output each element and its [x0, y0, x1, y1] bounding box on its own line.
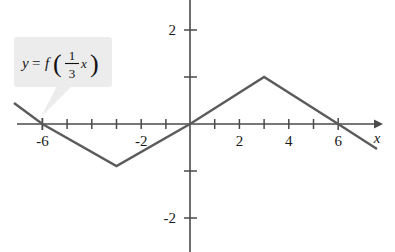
y-tick-label--2: -2 — [164, 210, 177, 226]
callout-numerator: 1 — [69, 48, 76, 63]
callout-tail — [41, 86, 72, 117]
x-tick-label-4: 4 — [285, 133, 293, 149]
function-curve — [14, 77, 377, 166]
callout-paren-open: ( — [53, 49, 62, 78]
callout-paren-close: ) — [90, 49, 99, 78]
y-tick-label-2: 2 — [169, 22, 177, 38]
callout-variable: x — [80, 56, 87, 71]
x-axis-label: x — [373, 130, 381, 146]
x-tick-label--6: -6 — [36, 133, 49, 149]
callout-equals: = — [32, 55, 40, 71]
graph-figure: -6 -2 2 4 6 2 -2 x y = f ( 1 3 x ) — [0, 0, 395, 252]
x-tick-label-6: 6 — [334, 133, 342, 149]
callout-y: y — [20, 55, 29, 71]
callout-denominator: 3 — [69, 66, 76, 81]
x-tick-label--2: -2 — [135, 133, 148, 149]
x-axis-arrow-icon — [374, 120, 383, 129]
x-tick-label-2: 2 — [236, 133, 244, 149]
